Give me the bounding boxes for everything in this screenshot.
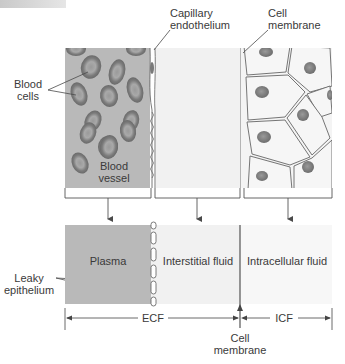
cell-membrane-bottom-label: Cell membrane <box>210 332 270 356</box>
cell-membrane-top-label: Cell membrane <box>268 7 338 31</box>
label-line: membrane <box>268 19 338 31</box>
label-line: endothelium <box>170 19 250 31</box>
blood-cells-label: Blood cells <box>6 78 50 102</box>
icf-label: ICF <box>270 312 298 324</box>
interstitial-region <box>156 48 240 188</box>
label-line: epithelium <box>0 284 58 296</box>
brackets <box>65 188 332 219</box>
fluid-compartments-diagram <box>0 0 345 364</box>
label-line: Cell <box>210 332 270 344</box>
interstitial-fluid-label: Interstitial fluid <box>155 255 241 267</box>
label-line: Cell <box>268 7 338 19</box>
ecf-label: ECF <box>138 312 168 324</box>
capillary-endothelium <box>150 48 156 188</box>
capillary-endothelium-label: Capillary endothelium <box>170 7 250 31</box>
label-line: Capillary <box>170 7 250 19</box>
label-line: membrane <box>210 344 270 356</box>
label-line: Leaky <box>0 272 58 284</box>
label-line: cells <box>6 90 50 102</box>
intracellular-fluid-label: Intracellular fluid <box>240 255 334 267</box>
blood-vessel-label: Blood vessel <box>94 160 134 184</box>
plasma-label: Plasma <box>65 255 151 267</box>
tissue-cells <box>240 46 333 190</box>
label-line: Blood <box>6 78 50 90</box>
label-line: vessel <box>94 172 134 184</box>
leaky-epithelium-label: Leaky epithelium <box>0 272 58 296</box>
label-line: Blood <box>94 160 134 172</box>
